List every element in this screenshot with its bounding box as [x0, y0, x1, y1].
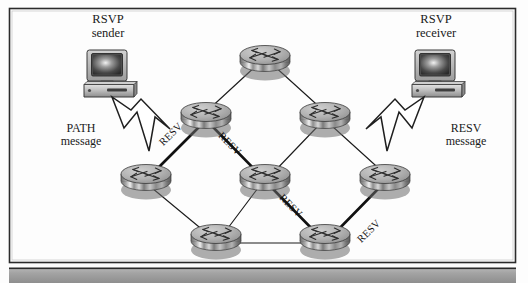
rsvp-receiver-label: RSVP receiver — [398, 12, 474, 40]
path-message-label-line2: message — [61, 134, 102, 148]
path-message-label: PATH message — [48, 122, 114, 149]
resv-message-label-line1: RESV — [451, 121, 482, 135]
router-bottom-left[interactable] — [191, 225, 241, 260]
resv-message-label-line2: message — [446, 134, 487, 148]
rsvp-receiver-label-line1: RSVP — [420, 12, 451, 26]
router-bottom-right[interactable] — [300, 225, 350, 260]
desktop-computer-icon-receiver[interactable] — [412, 50, 465, 97]
desktop-computer-icon-sender[interactable] — [84, 50, 137, 97]
resv-message-label: RESV message — [432, 122, 500, 149]
block-arrow-down-left-icon — [366, 97, 424, 151]
rsvp-sender-label-line2: sender — [92, 26, 125, 40]
rsvp-sender-label: RSVP sender — [70, 12, 146, 40]
router-right[interactable] — [360, 165, 410, 200]
rsvp-sender-label-line1: RSVP — [92, 12, 123, 26]
diagram-canvas: RSVP sender RSVP receiver PATH message R… — [0, 0, 528, 283]
router-upper-right[interactable] — [300, 103, 350, 138]
rsvp-receiver-label-line2: receiver — [416, 26, 456, 40]
router-left[interactable] — [121, 165, 171, 200]
path-message-label-line1: PATH — [67, 121, 96, 135]
footer-band — [9, 268, 516, 283]
router-top[interactable] — [240, 46, 290, 81]
